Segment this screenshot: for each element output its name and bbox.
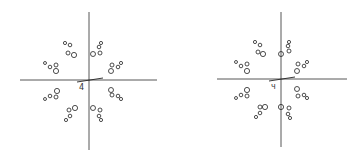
circle-cluster-upper-right-top (91, 41, 103, 56)
circle (258, 105, 262, 109)
circle (262, 104, 267, 109)
circle (67, 108, 71, 112)
circle (72, 105, 77, 110)
circle-cluster-right-upper (295, 60, 309, 73)
circle (68, 114, 72, 118)
circle (295, 69, 300, 74)
circle (235, 97, 238, 100)
diagram-panel-left: 4 (0, 0, 182, 162)
circle (91, 106, 96, 111)
circle (305, 60, 308, 63)
circle (286, 112, 290, 116)
circle-cluster-upper-right-top (279, 40, 292, 56)
circle (302, 64, 306, 68)
circle (244, 68, 249, 73)
circle (68, 43, 72, 47)
circle-cluster-left-lower (235, 87, 250, 99)
circle (119, 97, 122, 100)
left-diagram-svg: 4 (0, 0, 182, 162)
circle (287, 40, 290, 43)
circle (296, 62, 300, 66)
circle (97, 45, 101, 49)
circle-cluster-right-upper (109, 61, 123, 73)
circle (245, 62, 249, 66)
circle (296, 94, 300, 98)
circle (239, 64, 243, 68)
circle (66, 51, 70, 55)
circle (295, 87, 300, 92)
circle (54, 63, 58, 67)
diagram-panel-right: ч (182, 0, 364, 162)
circle (98, 108, 102, 112)
circle (48, 65, 52, 69)
circle (116, 65, 120, 69)
circle (99, 41, 102, 44)
origin-label: 4 (79, 83, 84, 92)
circle (64, 118, 67, 121)
circle-cluster-lower-left-bottom (64, 105, 77, 121)
circle (244, 87, 249, 92)
circle-cluster-left-lower (44, 88, 60, 100)
circle (116, 94, 120, 98)
circle-cluster-upper-left-top (63, 41, 76, 57)
circle (48, 94, 52, 98)
circle (109, 88, 114, 93)
circle (287, 106, 291, 110)
circle (119, 61, 122, 64)
circle (235, 61, 238, 64)
circle-cluster-right-lower (109, 88, 123, 101)
circle (54, 95, 58, 99)
circle (110, 93, 114, 97)
circle (260, 51, 265, 56)
circle (253, 40, 256, 43)
circle (53, 68, 58, 73)
circle (97, 114, 101, 118)
right-diagram-svg: ч (182, 0, 364, 162)
circle-cluster-lower-right-bottom (278, 104, 291, 119)
circle-cluster-left-upper (44, 62, 59, 74)
circle (305, 96, 308, 99)
circle (54, 88, 59, 93)
circle-cluster-left-upper (235, 61, 250, 74)
circle (63, 41, 66, 44)
circle (44, 98, 47, 101)
circle (91, 52, 96, 57)
circle (110, 63, 114, 67)
circle-cluster-lower-right-bottom (91, 106, 103, 122)
circle (254, 115, 257, 118)
circle (245, 94, 249, 98)
circle-cluster-upper-left-top (253, 40, 265, 56)
circle (109, 69, 114, 74)
circle (258, 43, 262, 47)
origin-label: ч (271, 82, 276, 91)
circle (256, 50, 260, 54)
circle-cluster-lower-left-bottom (254, 104, 267, 118)
circle (44, 62, 47, 65)
circle (239, 93, 243, 97)
circle (288, 116, 291, 119)
circle (287, 49, 291, 53)
circle (302, 93, 306, 97)
circle (71, 52, 76, 57)
circle (98, 51, 102, 55)
circle (258, 111, 262, 115)
circle (99, 118, 102, 121)
circle (286, 44, 290, 48)
circle-cluster-right-lower (295, 87, 309, 100)
